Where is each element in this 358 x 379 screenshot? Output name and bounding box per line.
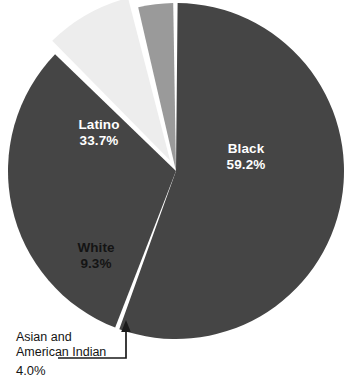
slice-label-latino-value: 33.7%: [46, 133, 152, 149]
slice-label-latino-name: Latino: [46, 117, 152, 133]
slice-label-white-name: White: [46, 240, 146, 256]
slice-label-black: Black 59.2%: [194, 141, 298, 173]
callout-label-line2: American Indian: [16, 345, 146, 360]
slice-callout-asian-american-indian: Asian and American Indian 4.0%: [16, 330, 146, 379]
slice-label-black-value: 59.2%: [194, 157, 298, 173]
callout-label-value: 4.0%: [16, 363, 146, 379]
slice-label-latino: Latino 33.7%: [46, 117, 152, 149]
slice-label-black-name: Black: [194, 141, 298, 157]
slice-label-white: White 9.3%: [46, 240, 146, 272]
pie-chart-svg: [0, 0, 358, 379]
callout-label-line1: Asian and: [16, 330, 146, 345]
slice-label-white-value: 9.3%: [46, 256, 146, 272]
pie-chart-figure: Latino 33.7% Black 59.2% White 9.3% Asia…: [0, 0, 358, 379]
